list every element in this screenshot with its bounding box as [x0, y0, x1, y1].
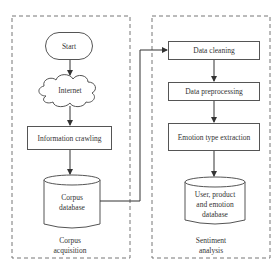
- group-sentiment-analysis-label: Sentiment analysis: [181, 236, 241, 256]
- corpus-database-line1: Corpus: [44, 193, 100, 203]
- start-node: Start: [45, 32, 93, 60]
- data-cleaning-label: Data cleaning: [193, 46, 234, 55]
- group-label-line2: analysis: [181, 246, 241, 256]
- user-database-label: User, product and emotion database: [185, 190, 245, 220]
- internet-label: Internet: [45, 86, 95, 96]
- group-label-line1: Sentiment: [181, 236, 241, 246]
- user-database-line1: User, product: [185, 190, 245, 200]
- emotion-type-extraction-node: Emotion type extraction: [168, 123, 260, 151]
- data-preprocessing-node: Data preprocessing: [168, 82, 260, 101]
- emotion-type-extraction-label: Emotion type extraction: [178, 133, 250, 142]
- corpus-database-label: Corpus database: [44, 193, 100, 213]
- user-database-line3: database: [185, 210, 245, 220]
- group-label-line1: Corpus: [40, 236, 100, 246]
- corpus-database-line2: database: [44, 203, 100, 213]
- information-crawling-node: Information crawling: [27, 126, 112, 150]
- group-label-line2: acquisition: [40, 246, 100, 256]
- user-database-line2: and emotion: [185, 200, 245, 210]
- start-label: Start: [62, 42, 76, 51]
- data-preprocessing-label: Data preprocessing: [185, 87, 243, 96]
- data-cleaning-node: Data cleaning: [168, 41, 260, 60]
- information-crawling-label: Information crawling: [38, 134, 102, 143]
- group-corpus-acquisition-label: Corpus acquisition: [40, 236, 100, 256]
